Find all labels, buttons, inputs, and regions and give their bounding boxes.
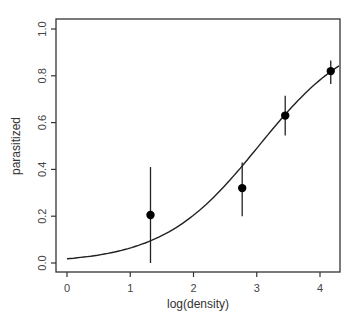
x-axis: 01234 bbox=[64, 272, 323, 294]
chart: 01234 0.00.20.40.60.81.0 log(density) pa… bbox=[0, 0, 358, 319]
data-point bbox=[146, 211, 154, 219]
x-tick-label: 3 bbox=[254, 282, 260, 294]
y-tick-label: 0.6 bbox=[36, 115, 48, 130]
y-tick-label: 0.4 bbox=[36, 162, 48, 177]
y-tick-label: 0.8 bbox=[36, 68, 48, 83]
x-axis-title: log(density) bbox=[167, 297, 229, 311]
y-tick-label: 0.0 bbox=[36, 255, 48, 270]
y-axis-title: parasitized bbox=[9, 117, 23, 175]
data-point bbox=[238, 184, 246, 192]
x-tick-label: 4 bbox=[317, 282, 323, 294]
x-tick-label: 0 bbox=[64, 282, 70, 294]
y-axis: 0.00.20.40.60.81.0 bbox=[36, 21, 56, 270]
plot-frame bbox=[56, 19, 340, 272]
x-tick-label: 1 bbox=[127, 282, 133, 294]
y-tick-label: 0.2 bbox=[36, 209, 48, 224]
fit-curve bbox=[67, 66, 339, 259]
x-tick-label: 2 bbox=[190, 282, 196, 294]
data-point bbox=[327, 67, 335, 75]
y-tick-label: 1.0 bbox=[36, 21, 48, 36]
data-point bbox=[281, 111, 289, 119]
